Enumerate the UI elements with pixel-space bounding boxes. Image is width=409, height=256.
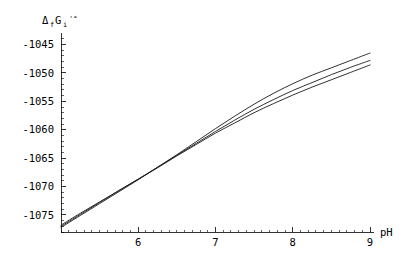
y-tick-label: -1065: [22, 152, 54, 164]
y-axis-title-delta: Δ: [42, 14, 49, 26]
y-axis-title: Δ f G i '°: [42, 14, 77, 29]
x-axis-title: pH: [380, 226, 393, 238]
plot-container: 6789 -1045-1050-1055-1060-1065-1070-1075…: [0, 0, 409, 256]
y-axis-tick-labels: -1045-1050-1055-1060-1065-1070-1075: [22, 38, 54, 220]
x-tick-label: 8: [290, 236, 296, 248]
x-tick-label: 6: [135, 236, 141, 248]
y-tick-label: -1070: [22, 180, 54, 192]
y-tick-label: -1060: [22, 123, 54, 135]
data-curve: [61, 60, 370, 226]
y-tick-label: -1050: [22, 67, 54, 79]
y-tick-label: -1075: [22, 209, 54, 221]
y-axis-title-sub-i: i: [63, 21, 67, 29]
data-curves: [61, 53, 370, 227]
y-axis-title-sub-f: f: [50, 21, 54, 29]
y-axis-title-g: G: [55, 14, 61, 26]
y-tick-label: -1055: [22, 95, 54, 107]
data-curve: [61, 65, 370, 225]
plot-canvas: 6789 -1045-1050-1055-1060-1065-1070-1075…: [0, 0, 409, 256]
y-tick-label: -1045: [22, 38, 54, 50]
y-axis-title-prime-degree: '°: [69, 15, 77, 23]
x-axis-ticks: [61, 227, 370, 232]
data-curve: [61, 53, 370, 227]
x-axis-tick-labels: 6789: [135, 236, 373, 248]
y-axis-ticks: [61, 39, 66, 232]
x-tick-label: 7: [212, 236, 218, 248]
x-tick-label: 9: [367, 236, 373, 248]
